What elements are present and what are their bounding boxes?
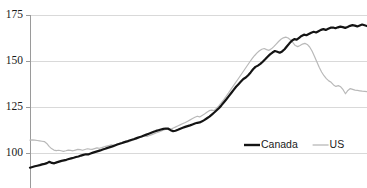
- y-axis: [26, 15, 31, 188]
- y-tick-label-100: 100: [6, 146, 24, 158]
- data-series-group: [30, 25, 367, 168]
- y-tick-label-150: 150: [6, 54, 24, 66]
- series-line-canada: [30, 25, 367, 168]
- y-axis-tick-labels: 100125150175: [6, 8, 24, 158]
- y-tick-label-175: 175: [6, 8, 24, 20]
- chart-legend[interactable]: CanadaUS: [244, 138, 344, 150]
- y-tick-label-125: 125: [6, 100, 24, 112]
- legend-label-canada[interactable]: Canada: [261, 138, 298, 150]
- gridlines-group: [30, 16, 367, 154]
- chart-plot-area: 100125150175 CanadaUS: [0, 0, 367, 188]
- series-line-us: [30, 37, 367, 151]
- line-chart: 100125150175 CanadaUS: [0, 0, 367, 188]
- legend-label-us[interactable]: US: [330, 138, 345, 150]
